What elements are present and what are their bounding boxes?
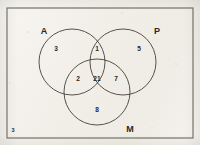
region-count-a-and-m: 2 — [76, 75, 80, 82]
universal-set-rectangle — [7, 8, 193, 138]
region-count-a-and-p: 1 — [95, 45, 99, 52]
region-count-p-and-m: 7 — [114, 75, 118, 82]
set-circle-m — [64, 59, 130, 125]
region-count-a-p-m: 21 — [93, 75, 101, 82]
region-count-a-only: 3 — [54, 45, 58, 52]
set-label-p: P — [154, 26, 160, 36]
region-count-p-only: 5 — [137, 45, 141, 52]
venn-diagram-figure: A P M 3 1 5 2 21 7 8 3 — [0, 0, 200, 145]
set-circle-a — [39, 29, 105, 95]
set-circle-p — [90, 29, 156, 95]
region-count-m-only: 8 — [95, 106, 99, 113]
set-label-a: A — [41, 26, 48, 36]
universe-outside-count: 3 — [11, 127, 14, 133]
venn-diagram-canvas: A P M 3 1 5 2 21 7 8 3 — [0, 0, 200, 145]
set-label-m: M — [126, 124, 134, 134]
